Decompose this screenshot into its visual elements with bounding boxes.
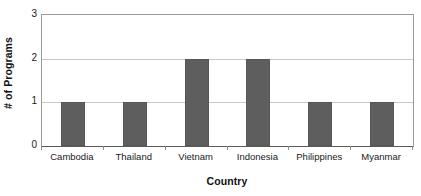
x-axis-tick	[41, 146, 42, 150]
x-axis-category-label: Myanmar	[350, 151, 412, 163]
bar[interactable]	[370, 102, 394, 146]
bar[interactable]	[308, 102, 332, 146]
plot-area	[41, 14, 414, 147]
y-axis-tick-label: 1	[13, 96, 37, 106]
x-axis-tick	[350, 146, 351, 150]
x-axis-category-label: Philippines	[288, 151, 350, 163]
x-axis-tick	[165, 146, 166, 150]
x-axis-category-label: Cambodia	[41, 151, 103, 163]
bar[interactable]	[246, 59, 270, 146]
y-axis-tick-label: 2	[13, 53, 37, 63]
x-axis-tick	[412, 146, 413, 150]
bars-group	[42, 15, 413, 146]
x-axis-ticks	[41, 146, 413, 150]
x-axis-title: Country	[41, 175, 413, 187]
bar[interactable]	[61, 102, 85, 146]
y-axis-tick-labels: 0123	[10, 0, 37, 196]
bar[interactable]	[123, 102, 147, 146]
bar-chart: # of Programs 0123 CambodiaThailandVietn…	[0, 0, 421, 196]
x-axis-category-label: Indonesia	[227, 151, 289, 163]
x-axis-tick	[103, 146, 104, 150]
x-axis-tick-labels: CambodiaThailandVietnamIndonesiaPhilippi…	[41, 151, 413, 165]
x-axis-category-label: Vietnam	[165, 151, 227, 163]
bar[interactable]	[185, 59, 209, 146]
y-axis-tick-label: 0	[13, 140, 37, 150]
y-axis-tick-label: 3	[13, 9, 37, 19]
x-axis-category-label: Thailand	[103, 151, 165, 163]
x-axis-tick	[288, 146, 289, 150]
x-axis-tick	[227, 146, 228, 150]
